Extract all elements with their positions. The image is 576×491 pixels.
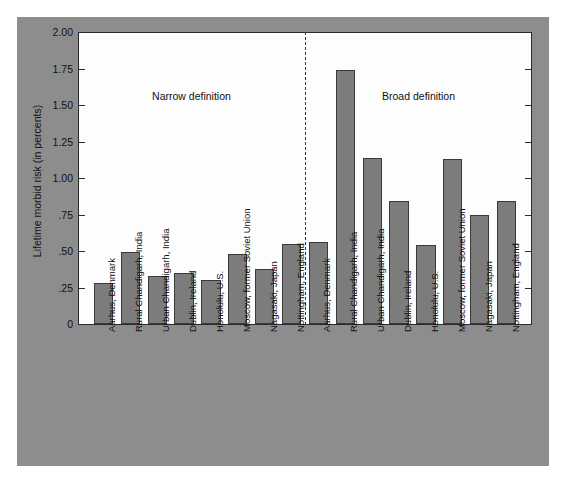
x-axis-label: Moscow, former Soviet Union <box>242 208 252 332</box>
y-axis-tick-mark-right <box>525 142 532 143</box>
y-axis-tick-mark-right <box>525 69 532 70</box>
x-axis-label: Aarhus, Denmark <box>322 258 332 332</box>
section-caption-narrow: Narrow definition <box>78 90 305 102</box>
x-axis-label: Nagasaki, Japan <box>484 261 494 332</box>
y-axis-tick-mark-right <box>525 215 532 216</box>
y-axis-tick-label: 1.25 <box>53 137 73 148</box>
x-axis-label: Rural Chandigarh, India <box>349 232 359 332</box>
x-axis-label: Nottingham, England <box>296 243 306 332</box>
y-axis-tick-mark-right <box>525 288 532 289</box>
y-axis-tick-mark <box>78 288 85 289</box>
y-axis-tick-label: 0 <box>67 319 73 330</box>
y-axis-tick-mark <box>78 215 85 216</box>
y-axis-tick-label: .50 <box>58 246 73 257</box>
y-axis-tick-label: .75 <box>58 210 73 221</box>
x-axis-label: Moscow, former Soviet Union <box>457 208 467 332</box>
y-axis-tick-mark-right <box>525 251 532 252</box>
x-axis-label: Urban Chandigarh, India <box>376 228 386 332</box>
y-axis-tick-label: 2.00 <box>53 27 73 38</box>
y-axis-tick-mark <box>78 251 85 252</box>
x-axis-label: Nagasaki, Japan <box>269 261 279 332</box>
x-axis-label: Dublin, Ireland <box>403 271 413 332</box>
y-axis-tick-label: 1.50 <box>53 100 73 111</box>
x-axis-label: Aarhus, Denmark <box>107 258 117 332</box>
x-axis-label: Urban Chandigarh, India <box>161 228 171 332</box>
x-axis-label: Honolulu, U.S. <box>215 271 225 332</box>
y-axis-tick-labels: 2.001.751.501.251.00.75.50.250 <box>28 0 73 491</box>
x-axis-label: Honolulu, U.S. <box>430 271 440 332</box>
y-axis-tick-mark <box>78 142 85 143</box>
y-axis-tick-mark-right <box>525 178 532 179</box>
x-axis-label: Rural Chandigarh, India <box>134 232 144 332</box>
y-axis-tick-mark <box>78 178 85 179</box>
x-axis-label: Nottingham, England <box>511 243 521 332</box>
x-axis-label: Dublin, Ireland <box>188 271 198 332</box>
y-axis-tick-label: 1.75 <box>53 64 73 75</box>
section-caption-broad: Broad definition <box>305 90 532 102</box>
y-axis-tick-mark-right <box>525 105 532 106</box>
figure-container: Lifetime morbid risk (in percents) 2.001… <box>0 0 576 491</box>
y-axis-tick-label: .25 <box>58 283 73 294</box>
y-axis-tick-mark <box>78 69 85 70</box>
y-axis-tick-mark <box>78 105 85 106</box>
y-axis-tick-label: 1.00 <box>53 173 73 184</box>
